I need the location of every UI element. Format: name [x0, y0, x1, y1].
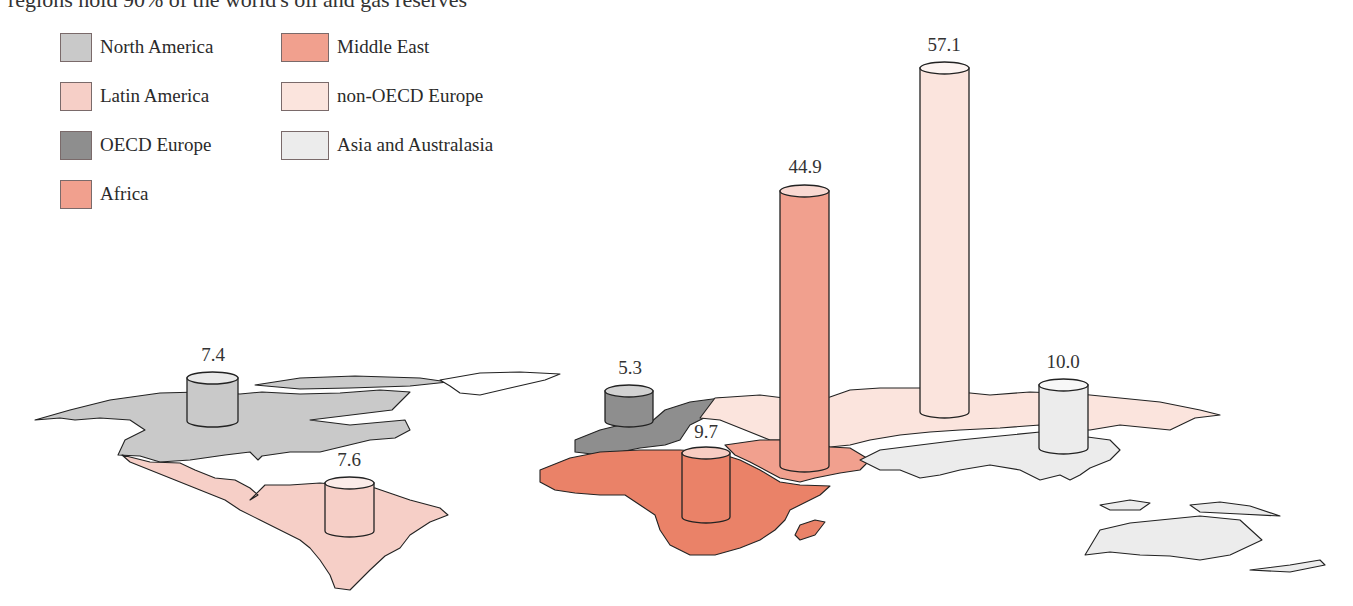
- cylinder-oecd-europe: 5.3: [605, 357, 653, 427]
- value-label: 10.0: [1046, 351, 1079, 372]
- value-label: 57.1: [927, 34, 960, 55]
- value-label: 5.3: [618, 357, 642, 378]
- cylinder-latin-america: 7.6: [325, 449, 374, 537]
- cylinder-north-america: 7.4: [187, 344, 238, 427]
- value-label: 44.9: [788, 156, 821, 177]
- region-latin-america: [122, 455, 448, 590]
- value-label: 9.7: [694, 421, 718, 442]
- world-map: 7.47.65.39.744.957.110.0: [0, 0, 1353, 606]
- value-label: 7.4: [201, 344, 225, 365]
- cylinder-asia-and-australasia: 10.0: [1039, 351, 1088, 454]
- cylinder-middle-east: 44.9: [780, 156, 829, 472]
- cylinder-non-oecd-europe: 57.1: [920, 34, 969, 418]
- value-label: 7.6: [337, 449, 361, 470]
- cylinder-africa: 9.7: [682, 421, 730, 523]
